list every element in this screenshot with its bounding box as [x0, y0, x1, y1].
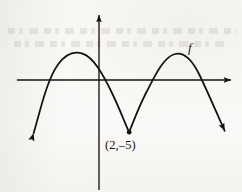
vertex-point-marker: [127, 130, 132, 135]
curve-left-arc: [34, 53, 129, 134]
curve-right-arc: [130, 54, 225, 131]
curve-name-label: f: [188, 41, 192, 54]
graph-canvas: [0, 0, 242, 192]
graph-figure: f (2,–5): [0, 0, 242, 192]
vertex-coordinate-label: (2,–5): [105, 139, 136, 152]
